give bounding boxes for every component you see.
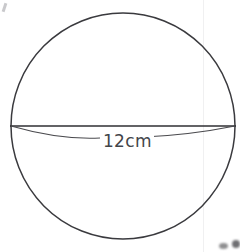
figure-canvas: 12cm xyxy=(0,0,240,252)
page-smudge-artifact xyxy=(219,243,228,249)
equator-arc-right xyxy=(144,126,235,137)
page-smudge-artifact xyxy=(232,240,240,248)
sphere-diagram xyxy=(0,0,240,252)
diameter-label: 12cm xyxy=(101,131,154,151)
equator-arc-left xyxy=(11,126,100,138)
